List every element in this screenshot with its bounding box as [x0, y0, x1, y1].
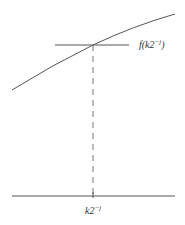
sample-point-diagram: f(k2−j) k2−j	[0, 0, 185, 225]
value-label: f(k2−j)	[139, 38, 165, 51]
point-label: k2−j	[85, 204, 101, 216]
